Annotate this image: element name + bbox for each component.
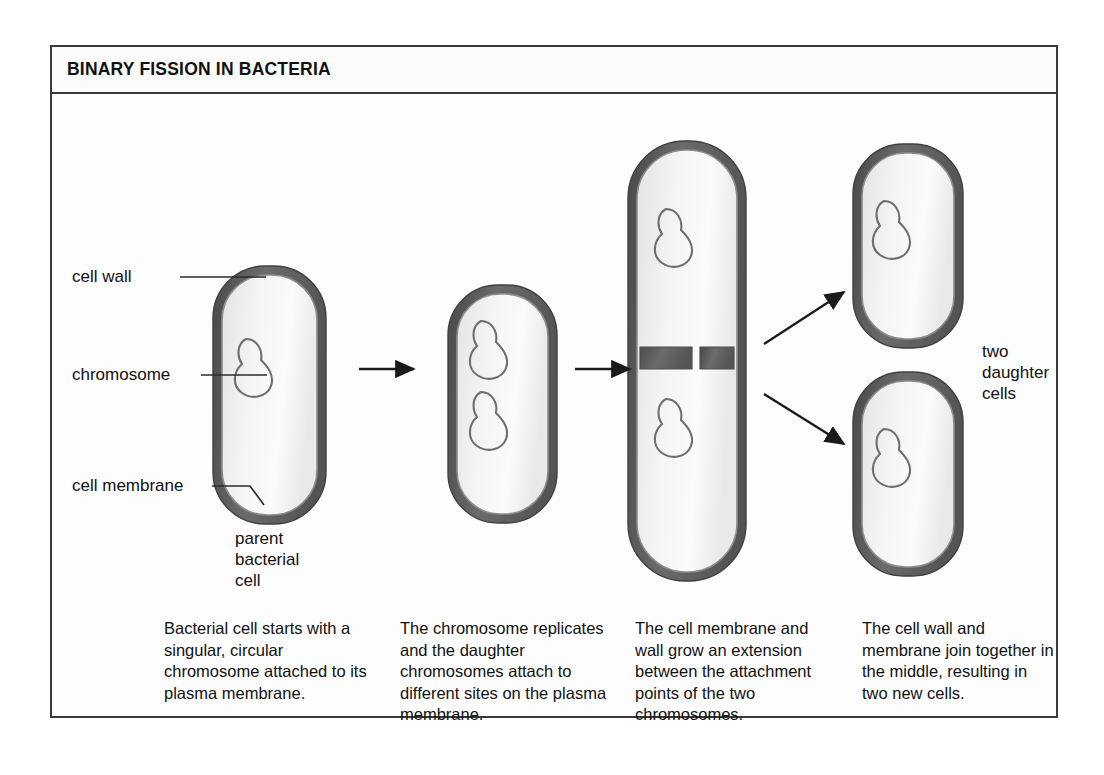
caption-stage-3: The cell membrane and wall grow an exten… — [635, 618, 840, 726]
label-cell-membrane: cell membrane — [72, 476, 184, 496]
caption-stage-1: Bacterial cell starts with a singular, c… — [164, 618, 369, 704]
figure-frame: BINARY FISSION IN BACTERIA — [50, 45, 1058, 718]
diagram-canvas: cell wall chromosome cell membrane paren… — [52, 94, 1056, 716]
septum-right — [700, 347, 734, 369]
stage-4-daughter-cell-top — [853, 144, 963, 348]
figure-header-band: BINARY FISSION IN BACTERIA — [52, 47, 1056, 94]
figure-title: BINARY FISSION IN BACTERIA — [67, 59, 331, 80]
septum-left — [640, 347, 692, 369]
stage-2-cell — [448, 285, 557, 523]
stage-4-daughter-cell-bottom — [853, 372, 963, 576]
caption-stage-4: The cell wall and membrane join together… — [862, 618, 1057, 704]
label-cell-wall: cell wall — [72, 267, 132, 287]
arrow-stage3-to-daughter-top — [764, 292, 844, 344]
label-chromosome: chromosome — [72, 365, 170, 385]
stage-3-cell — [628, 141, 746, 581]
caption-stage-2: The chromosome replicates and the daught… — [400, 618, 615, 726]
arrow-stage3-to-daughter-bottom — [764, 394, 844, 444]
